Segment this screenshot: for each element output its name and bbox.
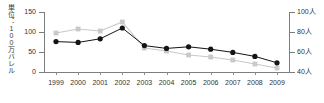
data-point (76, 27, 81, 32)
chart-container: 単位：100万バレル 050100150 40人60人80人100人 19992… (0, 0, 324, 103)
data-point (186, 44, 191, 49)
data-point (164, 46, 169, 51)
data-point (98, 36, 103, 41)
data-point (54, 31, 59, 36)
data-point (53, 39, 58, 44)
series-line (56, 22, 277, 68)
data-point (252, 54, 257, 59)
data-point (274, 60, 279, 65)
data-point (230, 50, 235, 55)
series-black (53, 25, 279, 65)
data-point (275, 66, 280, 71)
series-plot-area (0, 0, 324, 103)
data-point (76, 40, 81, 45)
data-point (208, 55, 213, 60)
series-gray (54, 20, 280, 71)
data-point (98, 29, 103, 34)
data-point (230, 58, 235, 63)
data-point (120, 20, 125, 25)
series-line (56, 28, 277, 63)
data-point (186, 53, 191, 58)
data-point (253, 62, 258, 67)
data-point (120, 25, 125, 30)
data-point (208, 47, 213, 52)
data-point (142, 43, 147, 48)
